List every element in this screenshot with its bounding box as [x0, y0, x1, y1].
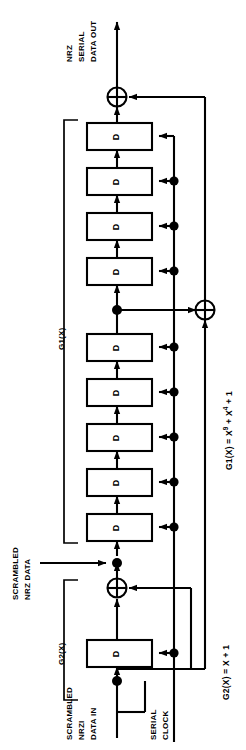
diagram-canvas: D D D D D D D D D D NRZ SERIAL DATA OUT … [0, 0, 246, 750]
equation-g1-plus-2: + [224, 399, 234, 404]
flipflop-letter-10: D [111, 651, 121, 658]
output-label-line-3: DATA OUT [90, 21, 99, 62]
flipflop-letter-9: D [111, 525, 121, 532]
flipflop-letter-1: D [111, 134, 121, 141]
equation-g2-term-x: X [221, 660, 231, 666]
equation-g1-term-x2: X [224, 410, 234, 416]
flipflop-letter-7: D [111, 435, 121, 442]
mid-tap-label-line-2: NRZ DATA [24, 559, 33, 600]
group-label-g1: G1(X) [58, 328, 67, 350]
bracket-g2 [64, 580, 78, 700]
xor-gate-bottom [108, 579, 127, 598]
equation-g1-op: = [224, 439, 234, 444]
clock-label-line-2: CLOCK [162, 711, 171, 740]
equation-g1-term-x1: X [224, 430, 234, 436]
junction-dot-nrz-tap [112, 558, 122, 568]
equation-g2-lhs: G2(X) [221, 676, 231, 700]
flipflop-letter-2: D [111, 179, 121, 186]
input-label-line-1: SCRAMBLED [66, 687, 75, 740]
junction-dot-clk8 [169, 477, 178, 486]
input-label-line-3: DATA IN [90, 708, 99, 740]
equation-g2-plus: + [221, 652, 231, 657]
equation-g1-exp-9: 9 [222, 426, 229, 430]
input-label-line-2: NRZI [78, 721, 87, 740]
equation-g1: G1(X) = X9 + X4 + 1 [222, 391, 234, 470]
xor-gate-mid [196, 301, 215, 320]
junction-dot-clk9 [169, 522, 178, 531]
mid-tap-label-line-1: SCRAMBLED [12, 547, 21, 600]
clock-label-line-1: SERIAL [150, 709, 159, 740]
junction-dot-input [112, 676, 122, 686]
junction-dot-clk7 [169, 432, 178, 441]
flipflop-letter-8: D [111, 480, 121, 487]
junction-dot-clk5 [169, 342, 178, 351]
flipflop-letter-3: D [111, 224, 121, 231]
equation-g2: G2(X) = X + 1 [222, 645, 232, 700]
flipflop-letter-4: D [111, 269, 121, 276]
junction-dot-clk2 [169, 176, 178, 185]
equation-g2-const: 1 [221, 645, 231, 650]
junction-dot-clk10 [169, 648, 178, 657]
equation-g1-plus-1: + [224, 419, 234, 424]
junction-dot-clk3 [169, 221, 178, 230]
diagram-vector-layer [0, 0, 246, 750]
junction-dot-tap-ff5 [112, 305, 122, 315]
output-label-line-1: NRZ [66, 45, 75, 62]
output-label-line-2: SERIAL [78, 31, 87, 62]
xor-gate-top [108, 88, 127, 107]
junction-dot-clk4 [169, 266, 178, 275]
flipflop-letter-5: D [111, 345, 121, 352]
equation-g2-op: = [221, 669, 231, 674]
junction-dot-clk6 [169, 387, 178, 396]
equation-g1-exp-4: 4 [222, 406, 229, 410]
equation-g1-lhs: G1(X) [224, 446, 234, 470]
equation-g1-const: 1 [224, 391, 234, 396]
flipflop-letter-6: D [111, 390, 121, 397]
group-label-g2: G2(X) [58, 643, 67, 665]
